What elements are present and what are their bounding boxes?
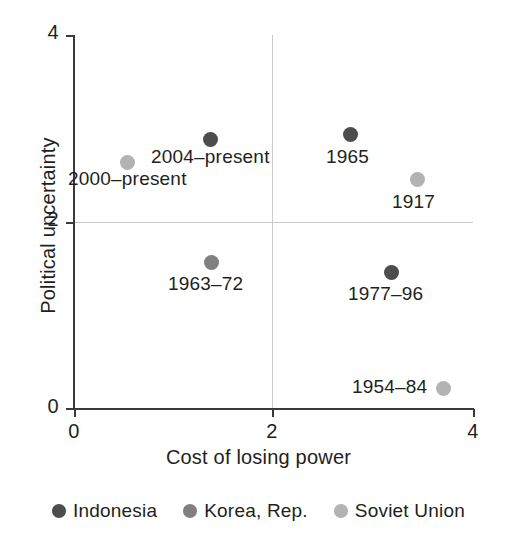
- data-label-1917: 1917: [392, 191, 435, 213]
- x-tick-label-4: 4: [453, 420, 493, 443]
- data-point-1977-96[interactable]: [384, 265, 399, 280]
- legend-item-soviet-union[interactable]: Soviet Union: [334, 500, 465, 522]
- data-point-1917[interactable]: [410, 172, 425, 187]
- data-label-2004-present: 2004–present: [151, 146, 270, 168]
- data-point-1954-84[interactable]: [436, 381, 451, 396]
- legend-swatch-korea-rep-icon: [183, 504, 197, 518]
- x-axis-title: Cost of losing power: [0, 446, 517, 469]
- legend-label-soviet-union: Soviet Union: [355, 500, 465, 522]
- data-label-1963-72: 1963–72: [168, 273, 243, 295]
- gridline-horizontal-y2: [74, 222, 473, 223]
- x-tick-0: [74, 409, 76, 417]
- legend-item-korea-rep[interactable]: Korea, Rep.: [183, 500, 308, 522]
- legend-swatch-soviet-union-icon: [334, 504, 348, 518]
- y-tick-4: [66, 35, 74, 37]
- data-point-1963-72[interactable]: [204, 255, 219, 270]
- x-tick-2: [272, 409, 274, 417]
- gridline-vertical-x2: [272, 35, 273, 409]
- x-tick-4: [473, 409, 475, 417]
- data-label-2000-present: 2000–present: [68, 168, 187, 190]
- legend-item-indonesia[interactable]: Indonesia: [52, 500, 157, 522]
- y-tick-2: [66, 222, 74, 224]
- y-tick-0: [66, 408, 74, 410]
- y-tick-label-4: 4: [29, 21, 59, 44]
- y-tick-label-0: 0: [29, 395, 59, 418]
- chart-legend: Indonesia Korea, Rep. Soviet Union: [0, 500, 517, 522]
- data-label-1977-96: 1977–96: [348, 283, 423, 305]
- scatter-chart: 4 2 0 0 2 4 Cost of losing power Politic…: [0, 0, 517, 555]
- data-point-1965[interactable]: [343, 127, 358, 142]
- x-tick-label-2: 2: [252, 420, 292, 443]
- data-label-1954-84: 1954–84: [352, 376, 427, 398]
- data-point-2004-present[interactable]: [203, 132, 218, 147]
- data-label-1965: 1965: [326, 146, 369, 168]
- y-axis-title: Political uncertainty: [37, 86, 60, 366]
- x-tick-label-0: 0: [54, 420, 94, 443]
- x-axis-line: [74, 408, 474, 410]
- legend-label-indonesia: Indonesia: [73, 500, 157, 522]
- legend-swatch-indonesia-icon: [52, 504, 66, 518]
- legend-label-korea-rep: Korea, Rep.: [204, 500, 308, 522]
